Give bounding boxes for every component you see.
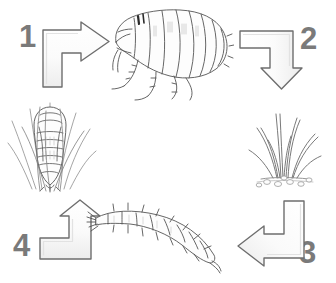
arrow-down-left-icon [236,199,308,269]
arrow-up-right-icon [40,20,112,90]
stage-number-1: 1 [19,21,35,52]
adult-flea-illustration [108,2,234,102]
flea-life-cycle-diagram: 1 2 3 4 [0,0,336,283]
flea-larva-illustration [86,201,222,277]
flea-pupa-in-grass-illustration [6,93,100,193]
stage-number-4: 4 [13,230,29,261]
flea-eggs-in-grass-illustration [247,104,331,188]
arrow-right-down-icon [238,22,310,92]
